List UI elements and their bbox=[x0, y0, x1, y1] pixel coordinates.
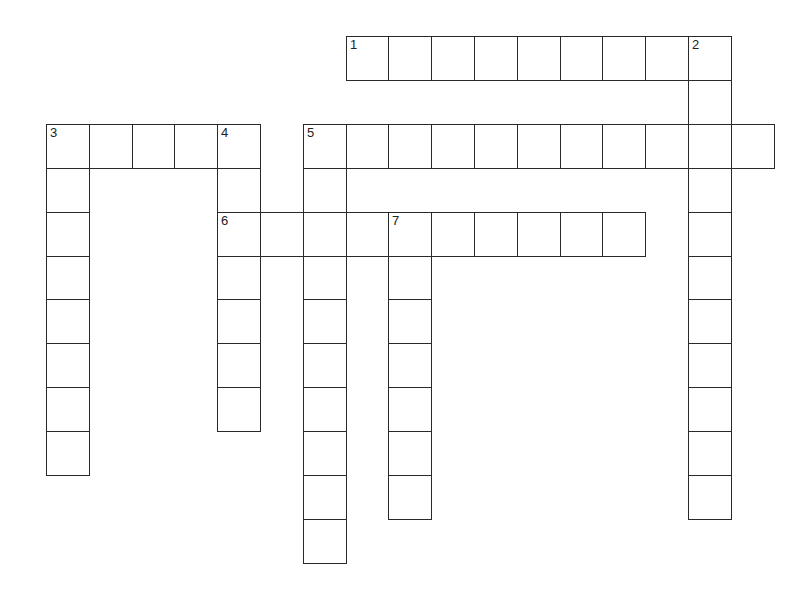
crossword-cell[interactable] bbox=[431, 212, 475, 257]
crossword-cell[interactable] bbox=[688, 256, 732, 300]
crossword-cell[interactable] bbox=[602, 124, 646, 169]
clue-number: 3 bbox=[50, 126, 57, 139]
crossword-cell[interactable] bbox=[474, 124, 518, 169]
crossword-cell[interactable] bbox=[303, 256, 347, 300]
crossword-cell[interactable] bbox=[217, 387, 261, 432]
crossword-cell[interactable] bbox=[388, 124, 432, 169]
crossword-cell[interactable] bbox=[132, 124, 175, 169]
crossword-cell[interactable] bbox=[346, 212, 389, 257]
crossword-cell[interactable] bbox=[46, 431, 90, 476]
crossword-cell[interactable] bbox=[46, 168, 90, 213]
crossword-cell[interactable]: 4 bbox=[217, 124, 261, 169]
crossword-cell[interactable] bbox=[388, 475, 432, 520]
crossword-cell[interactable] bbox=[731, 124, 775, 169]
crossword-cell[interactable] bbox=[688, 168, 732, 213]
crossword-cell[interactable] bbox=[517, 36, 561, 81]
crossword-cell[interactable] bbox=[388, 343, 432, 388]
crossword-cell[interactable] bbox=[560, 36, 603, 81]
crossword-cell[interactable] bbox=[303, 431, 347, 476]
clue-number: 6 bbox=[221, 214, 228, 227]
crossword-cell[interactable] bbox=[602, 212, 646, 257]
crossword-cell[interactable]: 5 bbox=[303, 124, 347, 169]
crossword-cell[interactable] bbox=[346, 124, 389, 169]
crossword-cell[interactable] bbox=[560, 212, 603, 257]
crossword-cell[interactable] bbox=[474, 36, 518, 81]
crossword-cell[interactable] bbox=[431, 124, 475, 169]
clue-number: 1 bbox=[350, 38, 357, 51]
crossword-cell[interactable] bbox=[303, 299, 347, 344]
crossword-cell[interactable] bbox=[303, 343, 347, 388]
crossword-cell[interactable]: 3 bbox=[46, 124, 90, 169]
crossword-cell[interactable] bbox=[645, 124, 689, 169]
crossword-cell[interactable] bbox=[688, 475, 732, 520]
crossword-cell[interactable] bbox=[174, 124, 218, 169]
crossword-cell[interactable] bbox=[46, 256, 90, 300]
crossword-cell[interactable] bbox=[217, 343, 261, 388]
crossword-cell[interactable]: 7 bbox=[388, 212, 432, 257]
crossword-cell[interactable] bbox=[217, 256, 261, 300]
crossword-cell[interactable] bbox=[260, 212, 304, 257]
crossword-cell[interactable] bbox=[217, 168, 261, 213]
crossword-cell[interactable] bbox=[388, 299, 432, 344]
crossword-cell[interactable] bbox=[645, 36, 689, 81]
clue-number: 2 bbox=[692, 38, 699, 51]
crossword-cell[interactable] bbox=[688, 212, 732, 257]
crossword-grid: 1234657 bbox=[0, 0, 808, 600]
crossword-cell[interactable] bbox=[431, 36, 475, 81]
crossword-cell[interactable]: 2 bbox=[688, 36, 732, 81]
crossword-cell[interactable]: 6 bbox=[217, 212, 261, 257]
crossword-cell[interactable] bbox=[388, 387, 432, 432]
crossword-cell[interactable] bbox=[46, 299, 90, 344]
crossword-cell[interactable] bbox=[688, 431, 732, 476]
crossword-cell[interactable]: 1 bbox=[346, 36, 389, 81]
crossword-cell[interactable] bbox=[602, 36, 646, 81]
crossword-cell[interactable] bbox=[688, 124, 732, 169]
crossword-cell[interactable] bbox=[46, 387, 90, 432]
crossword-cell[interactable] bbox=[303, 475, 347, 520]
crossword-cell[interactable] bbox=[474, 212, 518, 257]
crossword-cell[interactable] bbox=[46, 212, 90, 257]
crossword-cell[interactable] bbox=[46, 343, 90, 388]
crossword-cell[interactable] bbox=[303, 519, 347, 564]
crossword-cell[interactable] bbox=[388, 36, 432, 81]
crossword-cell[interactable] bbox=[303, 168, 347, 213]
crossword-cell[interactable] bbox=[688, 299, 732, 344]
crossword-cell[interactable] bbox=[517, 124, 561, 169]
crossword-cell[interactable] bbox=[303, 387, 347, 432]
crossword-cell[interactable] bbox=[303, 212, 347, 257]
crossword-cell[interactable] bbox=[517, 212, 561, 257]
crossword-cell[interactable] bbox=[688, 343, 732, 388]
clue-number: 4 bbox=[221, 126, 228, 139]
crossword-cell[interactable] bbox=[388, 431, 432, 476]
crossword-cell[interactable] bbox=[217, 299, 261, 344]
crossword-cell[interactable] bbox=[688, 387, 732, 432]
crossword-cell[interactable] bbox=[388, 256, 432, 300]
clue-number: 5 bbox=[307, 126, 314, 139]
crossword-cell[interactable] bbox=[89, 124, 133, 169]
crossword-cell[interactable] bbox=[688, 80, 732, 125]
clue-number: 7 bbox=[392, 214, 399, 227]
crossword-cell[interactable] bbox=[560, 124, 603, 169]
